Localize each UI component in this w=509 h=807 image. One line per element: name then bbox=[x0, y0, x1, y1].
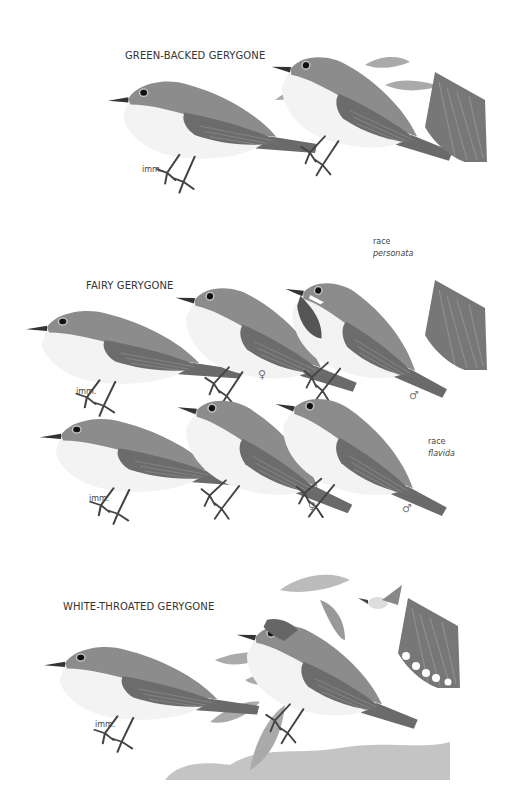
race-label: race bbox=[428, 437, 446, 446]
male-symbol: ♂ bbox=[402, 502, 412, 515]
male-symbol: ♂ bbox=[409, 389, 419, 402]
figure-label-imm: imm. bbox=[89, 494, 109, 503]
female-symbol: ♀ bbox=[258, 368, 266, 381]
race-name-personata: personata bbox=[373, 249, 413, 258]
fg-tail-detail bbox=[425, 280, 487, 370]
species-title-fairy: FAIRY GERYGONE bbox=[86, 280, 174, 291]
figure-label-imm: imm. bbox=[142, 165, 162, 174]
species-title-green-backed: GREEN-BACKED GERYGONE bbox=[125, 50, 265, 61]
field-guide-plate: GREEN-BACKED GERYGONE imm. FAIRY GERYGON… bbox=[0, 0, 509, 807]
figure-label-imm: imm. bbox=[76, 387, 96, 396]
wt-woodland-background bbox=[165, 742, 450, 780]
bird-illustrations bbox=[0, 0, 509, 807]
race-name-flavida: flavida bbox=[428, 449, 455, 458]
wt-tail-detail bbox=[398, 598, 460, 688]
race-label: race bbox=[373, 237, 391, 246]
species-title-white-throated: WHITE-THROATED GERYGONE bbox=[63, 601, 214, 612]
figure-label-imm: imm. bbox=[95, 720, 115, 729]
female-symbol: ♀ bbox=[308, 500, 316, 513]
wt-hovering-bird bbox=[358, 585, 402, 609]
